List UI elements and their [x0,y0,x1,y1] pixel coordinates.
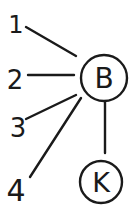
edge-4-b [30,98,81,177]
node-1-label: 1 [8,11,23,39]
node-3-label: 3 [10,113,27,143]
node-4-label: 4 [6,173,25,208]
edges [26,27,105,177]
node-b-label: B [94,62,113,95]
node-k: K [80,161,122,203]
graph-diagram: B K 1 2 3 4 [0,0,136,211]
node-k-label: K [92,167,111,198]
edge-1-b [26,27,76,56]
node-b: B [81,55,127,101]
nodes: B K 1 2 3 4 [6,11,127,208]
node-2-label: 2 [7,65,24,95]
